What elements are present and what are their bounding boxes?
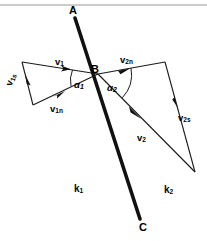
interface-line-ac <box>75 18 140 219</box>
diagram-canvas <box>0 0 207 241</box>
angle-label-alpha1-subscript: 1 <box>80 83 84 90</box>
vector-label-v1: v1 <box>55 57 64 68</box>
medium-label-k1: k1 <box>74 184 83 195</box>
vector-label-v1n-subscript: 1n <box>55 107 63 114</box>
angle-label-alpha2-subscript: 2 <box>113 86 117 93</box>
vector-label-v1s-subscript: 1s <box>9 73 18 82</box>
vector-label-v1n: v1n <box>50 104 63 115</box>
angle-arc-alpha2 <box>122 68 131 98</box>
angle-label-alpha1: α1 <box>74 80 84 90</box>
vector-label-v2-subscript: 2 <box>142 136 146 143</box>
vector-label-v2: v2 <box>137 133 146 144</box>
angle-arc-alpha1 <box>70 70 72 86</box>
vector-label-v2s: v2s <box>178 113 191 124</box>
medium-label-k2-subscript: 2 <box>170 188 174 195</box>
angle-label-alpha2: α2 <box>107 83 117 93</box>
point-label-b: B <box>91 64 99 75</box>
vector-v1n-line <box>33 74 98 105</box>
medium-label-k2: k2 <box>164 185 173 196</box>
point-label-a: A <box>69 5 77 16</box>
vector-v2-arrowhead <box>129 107 141 119</box>
point-label-c: C <box>139 222 147 233</box>
vector-label-v2n-subscript: 2n <box>125 58 133 65</box>
medium-label-k1-subscript: 1 <box>80 187 84 194</box>
vector-label-v1-subscript: 1 <box>60 60 64 67</box>
vector-label-v2n: v2n <box>120 55 133 66</box>
vector-diagram-figure: A B C k1 k2 α1 α2 v1 v1s v1n v2n v2s v2 <box>0 0 207 241</box>
vector-label-v2s-subscript: 2s <box>183 116 190 123</box>
